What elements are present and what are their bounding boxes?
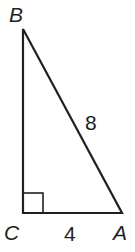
vertex-label-b: B	[9, 3, 23, 26]
right-angle-marker	[23, 193, 43, 213]
triangle-abc	[23, 29, 122, 213]
side-label-ca: 4	[64, 222, 76, 245]
right-triangle-diagram: B C A 8 4	[0, 0, 135, 252]
vertex-label-c: C	[4, 221, 20, 244]
vertex-label-a: A	[111, 221, 127, 244]
side-label-ab: 8	[85, 111, 97, 134]
